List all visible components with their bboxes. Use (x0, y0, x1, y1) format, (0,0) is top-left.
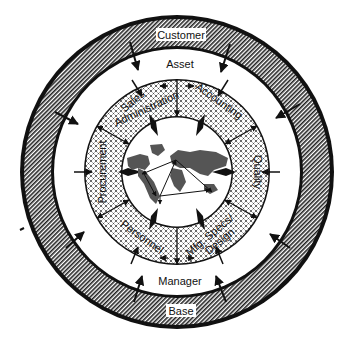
segment-procurement: Procurement (96, 141, 108, 204)
svg-text:Base: Base (168, 305, 193, 317)
segment-quality: Quality (252, 155, 264, 190)
svg-text:Customer: Customer (157, 29, 205, 41)
manager-label: Manager (158, 275, 202, 287)
asset-label: Asset (166, 58, 194, 70)
customer-label: Customer (156, 28, 206, 41)
base-label: Base (166, 304, 196, 317)
asset-manager-diagram: Customer Base Asset Manager Sales Admini… (0, 0, 353, 345)
